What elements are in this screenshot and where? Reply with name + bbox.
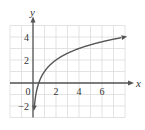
x-tick-label: 0 [26,86,31,97]
y-tick-label: 4 [24,32,29,43]
y-tick-label: 2 [24,55,29,66]
x-tick-label: 2 [54,86,59,97]
x-tick-label: 4 [77,86,82,97]
x-tick-label: 6 [100,86,105,97]
data-series [32,35,127,111]
x-axis-label: x [135,77,141,89]
curve-arrow-right-icon [121,35,127,40]
y-axis-label: y [29,6,35,18]
x-axis-arrow-icon [128,81,134,86]
y-tick-label: −2 [18,101,29,112]
chart: 024642−2 x y [0,0,145,130]
